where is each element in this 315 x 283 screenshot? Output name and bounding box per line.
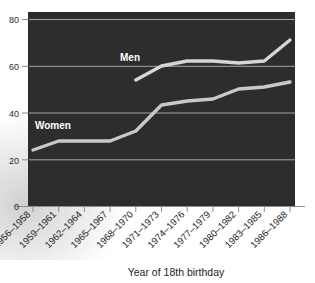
- chart-figure: 80 60 40 20 0 Men Women 1956–1958: [0, 0, 315, 283]
- plot-area-texture: [28, 12, 295, 206]
- y-tick-label-0: 0: [14, 202, 19, 212]
- y-tick-marks: [22, 20, 28, 207]
- x-tick-marks: [33, 207, 290, 213]
- y-tick-label-80: 80: [9, 15, 19, 25]
- y-tick-label-20: 20: [9, 156, 19, 166]
- x-tick-labels: 1956–1958 1959–1961 1962–1964 1965–1967 …: [0, 209, 289, 250]
- y-tick-label-40: 40: [9, 109, 19, 119]
- series-label-women: Women: [35, 120, 71, 131]
- x-axis-title: Year of 18th birthday: [128, 266, 225, 278]
- series-label-men: Men: [120, 52, 140, 63]
- line-chart: 80 60 40 20 0 Men Women 1956–1958: [0, 0, 315, 283]
- y-tick-label-60: 60: [9, 62, 19, 72]
